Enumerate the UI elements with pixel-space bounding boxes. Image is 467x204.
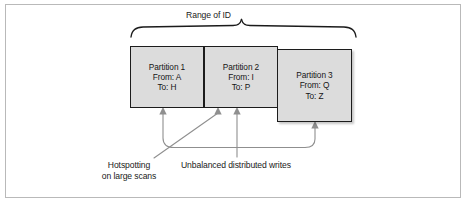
arrowhead-partition3 <box>311 121 318 129</box>
arrowhead-partition1 <box>159 107 166 115</box>
partition-3-to: To: Z <box>306 91 324 101</box>
arrowhead-partition2-left <box>214 107 221 115</box>
partition-2-name: Partition 2 <box>223 62 259 72</box>
arrowhead-partition2-right <box>233 107 240 115</box>
figure-container: Range of ID Partition 1 <box>0 0 467 204</box>
hotspotting-caption-line2: on large scans <box>86 171 172 182</box>
partition-1-name: Partition 1 <box>149 62 185 72</box>
partition-2-from: From: I <box>228 72 254 82</box>
unbalanced-writes-caption: Unbalanced distributed writes <box>181 160 291 171</box>
connector-hotspotting <box>154 113 218 158</box>
hotspotting-caption: Hotspotting on large scans <box>86 160 172 182</box>
partition-box-2[interactable]: Partition 2 From: I To: P <box>204 46 278 108</box>
partition-1-from: From: A <box>153 72 181 82</box>
partition-3-from: From: Q <box>300 80 330 90</box>
partition-3-name: Partition 3 <box>296 70 332 80</box>
hotspotting-caption-line1: Hotspotting <box>86 160 172 171</box>
partition-2-to: To: P <box>232 82 250 92</box>
partition-box-1[interactable]: Partition 1 From: A To: H <box>130 46 204 108</box>
partition-1-to: To: H <box>158 82 177 92</box>
diagram-stage: Range of ID Partition 1 <box>0 0 467 204</box>
connector-partition3 <box>305 127 315 148</box>
partition-box-3[interactable]: Partition 3 From: Q To: Z <box>277 49 352 122</box>
